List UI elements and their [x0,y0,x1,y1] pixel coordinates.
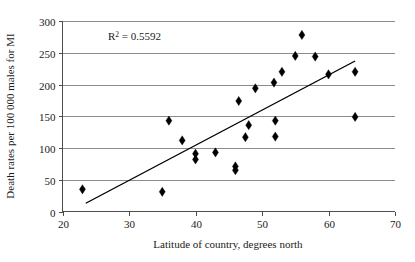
y-tick-label-200: 200 [39,80,56,92]
y-tick-label-250: 250 [39,48,56,60]
x-tick-label-60: 60 [324,218,336,230]
x-tick-label-30: 30 [124,218,136,230]
x-tick-label-40: 40 [191,218,203,230]
y-tick-label-300: 300 [39,16,56,28]
x-tick-label-70: 70 [390,218,402,230]
x-axis-title: Latitude of country, degrees north [153,238,303,250]
x-tick-label-20: 20 [58,218,70,230]
y-tick-label-100: 100 [39,143,56,155]
y-axis-title: Death rates per 100 000 males for MI [4,33,16,199]
y-tick-label-50: 50 [45,175,57,187]
y-tick-label-0: 0 [50,207,56,219]
x-tick-label-50: 50 [257,218,269,230]
y-tick-label-150: 150 [39,111,56,123]
scatter-chart: 050100150200250300 203040506070 R2 = 0.5… [0,0,415,262]
